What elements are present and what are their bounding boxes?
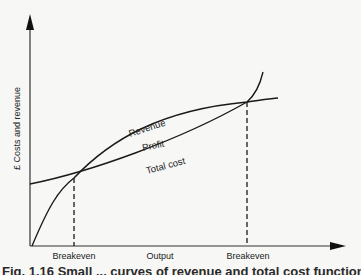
x-axis-arrow-icon: [330, 242, 346, 250]
total-cost-label: Total cost: [145, 155, 187, 176]
x-axis-label: Output: [146, 251, 174, 261]
y-axis-label: £ Costs and revenue: [12, 87, 22, 170]
profit-label: Profit: [141, 138, 165, 153]
breakeven-left-label: Breakeven: [52, 251, 95, 261]
breakeven-right-label: Breakeven: [226, 251, 269, 261]
figure-caption: Fig. 1.16 Small ... curves of revenue an…: [0, 265, 361, 275]
revenue-label: Revenue: [127, 117, 167, 139]
y-axis-arrow-icon: [26, 14, 34, 30]
